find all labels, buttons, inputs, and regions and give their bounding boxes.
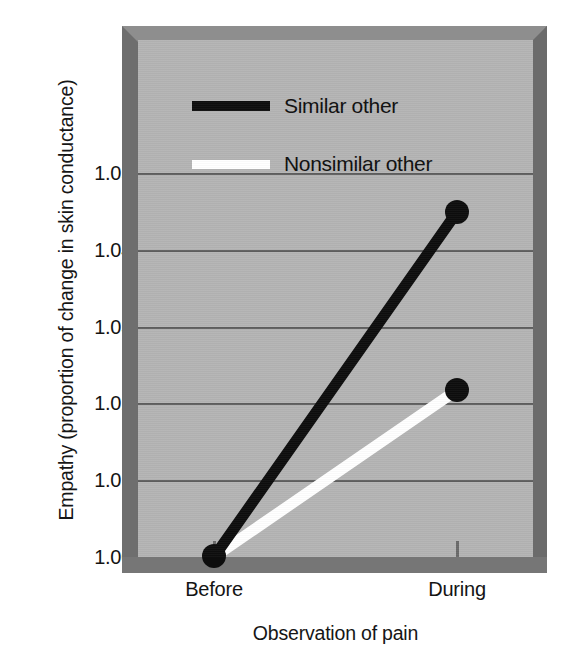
legend-swatch-black-line-icon — [192, 101, 270, 111]
data-point-nonsimilar-during — [445, 378, 469, 402]
data-point-before-shared — [202, 544, 226, 568]
x-tick-label-during: During — [428, 578, 486, 601]
legend-swatch-white-line-icon — [192, 160, 270, 169]
plot-area: Similar other Nonsimilar other — [138, 40, 533, 557]
x-axis-title: Observation of pain — [138, 622, 533, 645]
plot-bevel-left — [122, 26, 138, 573]
plot-bevel-right — [533, 26, 547, 573]
legend-item-nonsimilar-other: Nonsimilar other — [192, 146, 512, 182]
legend-item-similar-other: Similar other — [192, 88, 512, 124]
legend-label: Nonsimilar other — [284, 152, 432, 176]
series-line-nonsimilar-other — [214, 390, 457, 557]
plot-bevel-bottom — [122, 557, 547, 573]
chart-legend: Similar other Nonsimilar other — [192, 88, 512, 182]
x-tick-label-before: Before — [185, 578, 243, 601]
data-point-similar-during — [445, 200, 469, 224]
series-line-similar-other — [214, 212, 457, 557]
chart-figure: Empathy (proportion of change in skin co… — [0, 0, 584, 667]
x-axis-tick-labels: Before During — [138, 578, 533, 606]
y-axis-tick-labels: 1.05 1.04 1.03 1.02 1.01 1.00 — [58, 0, 132, 667]
legend-label: Similar other — [284, 94, 398, 118]
